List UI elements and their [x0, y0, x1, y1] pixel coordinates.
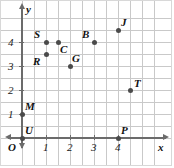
gridline-horizontal: [1, 42, 171, 43]
y-axis-arrow-up: [19, 3, 25, 9]
x-axis-tick-label: 4: [115, 142, 121, 153]
y-axis-tick: [19, 90, 24, 91]
data-point-g: [68, 64, 73, 69]
data-point-label-j: J: [121, 17, 127, 28]
coordinate-plane-figure: 12341234xyOSCRGBJTMUP: [0, 0, 174, 168]
origin-label: O: [8, 142, 16, 153]
x-axis-tick: [70, 135, 71, 140]
y-axis-tick-label: 2: [8, 85, 14, 96]
x-axis-tick: [46, 135, 47, 140]
gridline-horizontal: [1, 78, 171, 79]
gridline-vertical: [154, 1, 155, 165]
gridline-horizontal: [1, 66, 171, 67]
gridline-vertical: [58, 1, 59, 165]
data-point-label-s: S: [34, 29, 40, 40]
y-axis-tick-label: 1: [8, 109, 14, 120]
y-axis-tick: [19, 42, 24, 43]
data-point-label-b: B: [82, 29, 89, 40]
gridline-vertical: [142, 1, 143, 165]
gridline-horizontal: [1, 90, 171, 91]
x-axis-label: x: [158, 142, 164, 153]
x-axis-tick: [94, 135, 95, 140]
gridline-horizontal: [1, 54, 171, 55]
y-axis-tick-label: 4: [8, 37, 14, 48]
gridline-vertical: [82, 1, 83, 165]
data-point-label-t: T: [134, 78, 141, 89]
gridline-vertical: [130, 1, 131, 165]
gridline-vertical: [34, 1, 35, 165]
gridline-horizontal: [1, 114, 171, 115]
data-point-label-m: M: [25, 101, 35, 112]
data-point-p: [116, 136, 121, 141]
x-axis-tick-label: 3: [91, 142, 97, 153]
y-axis-label: y: [26, 4, 31, 15]
data-point-r: [44, 52, 49, 57]
y-axis-line: [21, 8, 23, 148]
x-axis-arrow-right: [163, 134, 169, 140]
data-point-label-p: P: [121, 125, 128, 136]
data-point-t: [128, 88, 133, 93]
data-point-u: [20, 136, 25, 141]
x-axis-line: [8, 137, 166, 139]
x-axis-tick-label: 1: [43, 142, 49, 153]
plot-area: 12341234xyOSCRGBJTMUP: [0, 0, 174, 168]
data-point-label-r: R: [33, 56, 40, 67]
data-point-m: [20, 112, 25, 117]
gridline-vertical: [106, 1, 107, 165]
data-point-label-g: G: [72, 53, 80, 64]
y-axis-arrow-down: [19, 143, 25, 149]
y-axis-tick-label: 3: [8, 61, 14, 72]
x-axis-tick-label: 2: [67, 142, 73, 153]
data-point-label-c: C: [60, 44, 67, 55]
data-point-j: [116, 28, 121, 33]
y-axis-tick: [19, 66, 24, 67]
data-point-s: [44, 40, 49, 45]
x-axis-arrow-left: [5, 134, 11, 140]
data-point-label-u: U: [25, 125, 33, 136]
gridline-horizontal: [1, 18, 171, 19]
data-point-b: [92, 40, 97, 45]
